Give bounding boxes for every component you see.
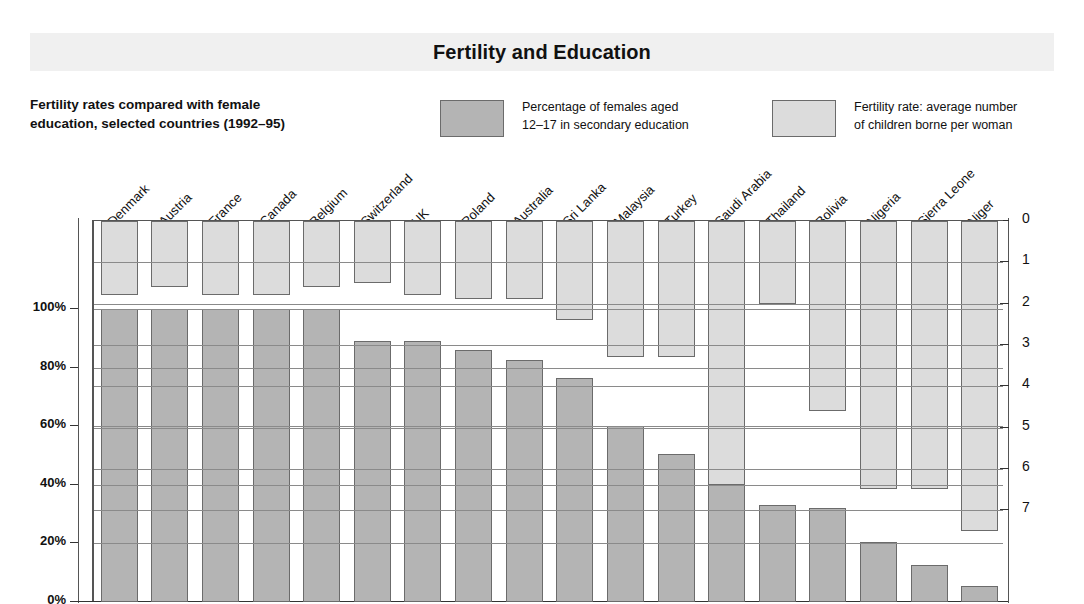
fertility-bar	[404, 221, 441, 295]
fertility-bar	[151, 221, 188, 287]
fertility-bar	[556, 221, 593, 320]
education-bar	[860, 542, 897, 602]
axis-label-right-6: 6	[1022, 458, 1052, 474]
axis-label-left-20: 20%	[8, 533, 66, 548]
gridline-left	[94, 485, 1003, 486]
fertility-education-chart: Fertility and Education Fertility rates …	[0, 0, 1084, 604]
tick-left	[70, 542, 78, 543]
legend-label-education: Percentage of females aged 12–17 in seco…	[522, 99, 772, 134]
right-axis-line	[1008, 218, 1009, 603]
legend-fertility-line1: Fertility rate: average number	[854, 99, 1084, 117]
legend-education-line1: Percentage of females aged	[522, 99, 772, 117]
education-bar	[253, 309, 290, 602]
tick-left	[70, 308, 78, 309]
tick-left	[70, 425, 78, 426]
axis-label-left-60: 60%	[8, 416, 66, 431]
left-axis-line	[78, 218, 79, 603]
education-bar	[961, 586, 998, 602]
education-bar	[759, 505, 796, 602]
tick-left	[70, 484, 78, 485]
fertility-bar	[658, 221, 695, 357]
axis-label-right-4: 4	[1022, 375, 1052, 391]
axis-label-left-40: 40%	[8, 475, 66, 490]
axis-label-right-1: 1	[1022, 251, 1052, 267]
fertility-bar	[303, 221, 340, 287]
education-bar	[809, 508, 846, 602]
legend-swatch-education	[440, 100, 504, 137]
legend-education-line2: 12–17 in secondary education	[522, 117, 772, 135]
axis-label-right-3: 3	[1022, 334, 1052, 350]
fertility-bar	[809, 221, 846, 411]
education-bar	[101, 309, 138, 602]
fertility-bar	[506, 221, 543, 299]
axis-label-left-100: 100%	[8, 299, 66, 314]
page-title: Fertility and Education	[30, 33, 1054, 71]
legend-label-fertility: Fertility rate: average number of childr…	[854, 99, 1084, 134]
axis-label-right-2: 2	[1022, 293, 1052, 309]
tick-left	[70, 601, 78, 602]
gridline-right	[94, 386, 1003, 387]
axis-label-left-0: 0%	[8, 592, 66, 604]
education-bar	[354, 341, 391, 602]
tick-left	[70, 367, 78, 368]
education-bar	[607, 426, 644, 602]
education-bar	[556, 378, 593, 602]
fertility-bar	[607, 221, 644, 357]
chart-subtitle-line2: education, selected countries (1992–95)	[30, 114, 430, 133]
chart-subtitle-line1: Fertility rates compared with female	[30, 95, 430, 114]
fertility-bar	[455, 221, 492, 299]
axis-label-right-5: 5	[1022, 417, 1052, 433]
axis-label-right-7: 7	[1022, 499, 1052, 515]
gridline-left	[94, 309, 1003, 310]
legend-swatch-fertility	[772, 100, 836, 137]
gridline-right	[94, 469, 1003, 470]
fertility-bar	[860, 221, 897, 489]
education-bar	[202, 309, 239, 602]
gridline-left	[94, 543, 1003, 544]
plot-area	[92, 220, 1003, 601]
chart-subtitle: Fertility rates compared with female edu…	[30, 95, 430, 133]
plot-inner	[94, 221, 1003, 601]
fertility-bar	[708, 221, 745, 485]
gridline-right	[94, 262, 1003, 263]
gridline-left	[94, 368, 1003, 369]
education-bar	[911, 565, 948, 602]
gridline-right	[94, 345, 1003, 346]
title-band: Fertility and Education	[30, 33, 1054, 71]
education-bar	[303, 309, 340, 602]
gridline-right	[94, 510, 1003, 511]
education-bar	[151, 309, 188, 602]
legend-fertility-line2: of children borne per woman	[854, 117, 1084, 135]
fertility-bar	[354, 221, 391, 283]
education-bar	[455, 350, 492, 602]
fertility-bar	[911, 221, 948, 489]
axis-label-left-80: 80%	[8, 358, 66, 373]
fertility-bar	[253, 221, 290, 295]
education-bar	[658, 454, 695, 602]
education-bar	[404, 341, 441, 602]
gridline-right	[94, 304, 1003, 305]
education-bar	[506, 360, 543, 602]
fertility-bar	[101, 221, 138, 295]
axis-label-right-0: 0	[1022, 210, 1052, 226]
gridline-right	[94, 428, 1003, 429]
fertility-bar	[202, 221, 239, 295]
